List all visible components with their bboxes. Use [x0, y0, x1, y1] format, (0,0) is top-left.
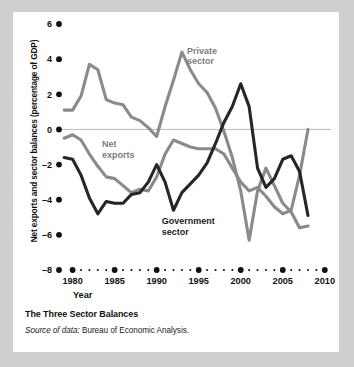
x-tick-label: 1985 — [104, 276, 124, 286]
x-tick-dot-major — [238, 267, 244, 273]
x-tick-dot-minor — [130, 269, 132, 271]
x-tick-label: 1990 — [146, 276, 166, 286]
x-tick-dot-minor — [139, 269, 141, 271]
x-tick-label: 2000 — [231, 276, 251, 286]
y-tick-label: 4 — [47, 54, 52, 64]
x-tick-dot-minor — [315, 269, 317, 271]
y-tick-dot — [56, 197, 62, 203]
annotation-line-1: Private — [187, 46, 217, 56]
y-tick-dot — [56, 21, 62, 27]
x-tick-dot-minor — [265, 269, 267, 271]
annotation-private: Privatesector — [187, 46, 217, 67]
x-tick-dot-minor — [256, 269, 258, 271]
annotation-government: Governmentsector — [162, 216, 215, 237]
annotation-line-2: exports — [102, 150, 135, 160]
x-tick-dot-major — [196, 267, 202, 273]
figure-caption: The Three Sector Balances Source of data… — [25, 309, 325, 335]
x-tick-dot-minor — [172, 269, 174, 271]
x-tick-dot-minor — [223, 269, 225, 271]
x-tick-dot-minor — [122, 269, 124, 271]
x-tick-dot-major — [322, 267, 328, 273]
y-tick-dot — [56, 127, 62, 133]
x-tick-dot-major — [112, 267, 118, 273]
y-tick-label: 6 — [47, 19, 52, 29]
x-tick-dot-minor — [290, 269, 292, 271]
source-prefix: Source of data: — [25, 326, 80, 335]
x-tick-dot-minor — [299, 269, 301, 271]
x-tick-label: 2005 — [273, 276, 293, 286]
annotation-line-2: sector — [162, 227, 190, 237]
x-tick-dot-minor — [206, 269, 208, 271]
annotation-line-2: sector — [187, 56, 215, 66]
y-tick-dot — [56, 267, 62, 273]
y-tick-label: –4 — [42, 195, 52, 205]
x-tick-dot-minor — [147, 269, 149, 271]
y-tick-label: –6 — [42, 230, 52, 240]
x-tick-dot-minor — [181, 269, 183, 271]
y-tick-dot — [56, 56, 62, 62]
y-tick-label: 0 — [47, 125, 52, 135]
y-tick-dot — [56, 91, 62, 97]
caption-source: Source of data: Bureau of Economic Analy… — [25, 326, 325, 335]
x-tick-dot-minor — [231, 269, 233, 271]
three-sector-balances-chart: 6420–2–4–6–81980198519901995200020052010… — [13, 12, 339, 312]
x-axis-title: Year — [73, 290, 93, 300]
figure-card: Net exports and sector balances (percent… — [13, 12, 339, 352]
y-tick-label: 2 — [47, 90, 52, 100]
x-tick-label: 1995 — [188, 276, 208, 286]
x-tick-dot-minor — [307, 269, 309, 271]
x-tick-label: 1980 — [62, 276, 82, 286]
series-line-net-exports — [64, 129, 308, 213]
y-tick-label: –8 — [42, 265, 52, 275]
y-tick-label: –2 — [42, 160, 52, 170]
chart-plot-area: 6420–2–4–6–81980198519901995200020052010… — [13, 12, 339, 312]
annotation-line-1: Net — [102, 139, 117, 149]
y-tick-dot — [56, 162, 62, 168]
x-tick-dot-minor — [273, 269, 275, 271]
x-tick-dot-minor — [248, 269, 250, 271]
source-text: Bureau of Economic Analysis. — [80, 326, 189, 335]
x-tick-dot-major — [154, 267, 160, 273]
x-tick-dot-minor — [105, 269, 107, 271]
x-tick-dot-major — [70, 267, 76, 273]
x-tick-dot-major — [280, 267, 286, 273]
x-tick-dot-minor — [97, 269, 99, 271]
x-tick-dot-minor — [88, 269, 90, 271]
x-tick-dot-minor — [164, 269, 166, 271]
series-line-government-sector — [64, 84, 308, 216]
x-tick-dot-minor — [80, 269, 82, 271]
x-tick-dot-minor — [189, 269, 191, 271]
x-tick-label: 2010 — [315, 276, 335, 286]
annotation-net: Netexports — [102, 139, 135, 160]
annotation-line-1: Government — [162, 216, 215, 226]
x-tick-dot-minor — [214, 269, 216, 271]
caption-title: The Three Sector Balances — [25, 309, 325, 319]
y-tick-dot — [56, 232, 62, 238]
